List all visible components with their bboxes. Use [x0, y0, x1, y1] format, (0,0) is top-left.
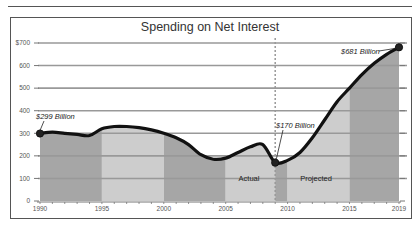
- area-band: [164, 133, 226, 201]
- axes: 1990199520002005201020152019: [33, 202, 407, 212]
- x-tick-label: 2005: [218, 205, 233, 212]
- y-tick-label: 500: [19, 84, 30, 91]
- area-band: [275, 160, 287, 201]
- y-tick-label: $700: [16, 39, 31, 46]
- annotation-leader: [40, 121, 44, 131]
- y-tick-label: 100: [19, 175, 30, 182]
- x-tick-label: 2015: [342, 205, 357, 212]
- x-tick-label: 2000: [157, 205, 172, 212]
- region-label-projected: Projected: [300, 174, 332, 183]
- y-tick-label: 300: [19, 130, 30, 137]
- annotation-label: $170 Billion: [275, 121, 315, 130]
- y-tick-label: 0: [26, 197, 30, 204]
- chart-plot: 0100200300400500600$700 1990199520002005…: [0, 0, 420, 226]
- x-tick-label: 2010: [280, 205, 295, 212]
- annotation-label: $299 Billion: [35, 112, 75, 121]
- data-marker: [272, 159, 279, 166]
- x-tick-label: 1990: [33, 205, 48, 212]
- region-label-actual: Actual: [239, 174, 260, 183]
- y-tick-label: 600: [19, 62, 30, 69]
- area-band: [102, 127, 164, 201]
- y-tick-label: 400: [19, 107, 30, 114]
- data-marker: [395, 44, 402, 51]
- x-tick-label: 2019: [392, 205, 407, 212]
- y-tick-label: 200: [19, 152, 30, 159]
- annotation-label: $681 Billion: [340, 47, 380, 56]
- area-band: [40, 129, 102, 201]
- area-band: [288, 88, 350, 201]
- x-tick-label: 1995: [95, 205, 110, 212]
- data-marker: [36, 130, 43, 137]
